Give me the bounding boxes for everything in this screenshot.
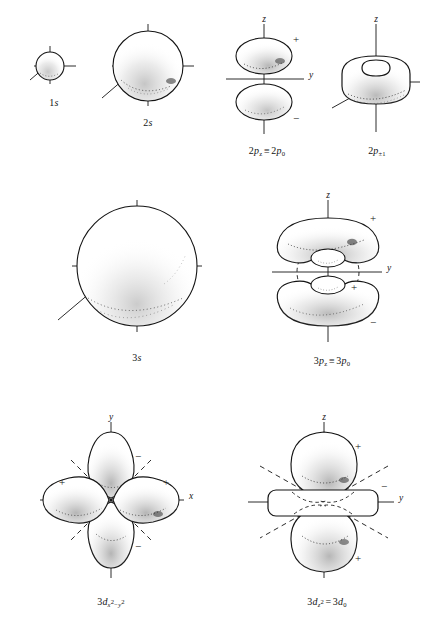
upper-lobe-shading [291,432,357,498]
orbital-3dx2y2-drawing: y x − − + + [16,410,206,590]
caption-3s: 3s [52,352,222,363]
caption-3dz2-relation: = [324,596,333,607]
orbital-2pz: z y + − [212,16,322,142]
caption-3dx2y2-sup-y: 2 [121,598,125,605]
orbital-3dz2-drawing: z y + + − [232,410,422,590]
orbital-1s-drawing [14,40,94,102]
stipple-dense-spot [166,78,176,84]
upper-lobe-shading [237,39,292,74]
right-lobe-dense-spot [153,511,163,517]
caption-2s-orbital: s [149,117,153,128]
axis-z-label: z [261,16,266,24]
axis-z-label: z [321,412,326,422]
caption-2p-pm1: 2p±1 [324,145,430,157]
sign-plus-inner-lower: + [351,281,357,293]
sign-plus-upper: + [355,440,361,452]
sphere-shading [37,53,64,80]
orbital-2s-drawing [88,18,208,122]
caption-2pz-relation: ≡ [262,145,271,156]
orbital-1s [14,40,94,102]
caption-3dz2-right-sub: 0 [343,601,347,608]
orbital-3pz: z y + − + − [256,190,406,350]
lower-lobe-dense-spot [339,539,349,545]
sign-minus-outer-lower: − [370,316,376,328]
axis-x-label: x [188,491,194,501]
sign-plus-lower: + [355,552,361,564]
sign-minus-torus: − [381,480,387,492]
orbital-3dz2: z y + + − [232,410,422,590]
orbital-3dx2y2: y x − − + + [16,410,206,590]
sign-minus-lower: − [293,112,299,124]
axis-y-label: y [398,493,404,503]
orbital-2pz-drawing: z y + − [212,16,322,142]
orbital-3s [52,192,222,344]
caption-3dz2: 3dz2=3d0 [232,596,422,608]
caption-1s-orbital: s [55,97,59,108]
sign-minus-bottom: − [135,540,141,552]
orbital-figure-page: 1s 2s [0,0,430,628]
caption-2pz-right-sub: 0 [282,150,286,157]
caption-3dx2y2-sub: x2−y2 [108,601,125,608]
sign-plus-left: + [59,476,65,488]
axis-z-label: z [325,190,330,200]
caption-1s: 1s [14,97,94,108]
inner-lower-lobe-boundary [311,276,345,294]
orbital-2p-pm1: z [324,16,430,142]
upper-lobe-dense-spot [339,477,349,483]
sign-plus-upper: + [293,33,299,45]
orbital-3s-drawing [52,192,222,344]
caption-3pz: 3pz≡3p0 [262,355,402,367]
sphere-shading [78,207,197,326]
outer-upper-lobe-dense-spot [347,239,357,245]
equatorial-torus-boundary [268,490,378,516]
caption-3pz-relation: ≡ [327,355,336,366]
axis-y-label: y [386,263,392,273]
sign-minus-inner-upper: − [351,256,357,268]
axis-y-label: y [308,70,314,80]
caption-3dx2y2: 3dx2−y2 [16,596,206,608]
orbital-3pz-drawing: z y + − + − [256,190,406,350]
caption-2pz: 2pz≡2p0 [205,145,329,157]
caption-2p-pm1-sub: ±1 [379,150,386,157]
sign-minus-top: − [135,450,141,462]
sphere-shading [114,32,183,101]
axis-y-label: y [108,412,114,422]
caption-3pz-right-sub: 0 [347,360,351,367]
sign-plus-right: + [163,476,169,488]
axis-z-label: z [373,16,378,24]
caption-2s: 2s [88,117,208,128]
torus-inner-hole [362,60,390,76]
orbital-2s [88,18,208,122]
orbital-2p-pm1-drawing: z [324,16,430,142]
inner-upper-lobe-boundary [311,249,345,267]
lower-lobe-shading [237,85,292,120]
sign-plus-outer-upper: + [370,212,376,224]
caption-3s-orbital: s [138,352,142,363]
upper-lobe-dense-spot [275,58,285,64]
